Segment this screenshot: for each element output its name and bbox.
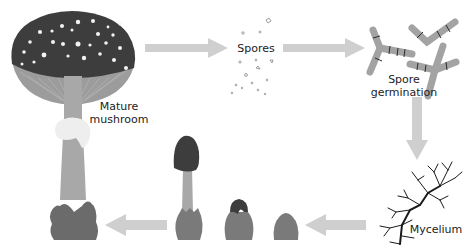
label-mycelium: Mycelium bbox=[410, 223, 463, 236]
label-mature: Mature bbox=[100, 100, 139, 113]
label-germination: germination bbox=[371, 86, 438, 99]
arrow-left-1 bbox=[305, 214, 366, 236]
spores-illustration bbox=[231, 18, 273, 95]
arrow-right-2 bbox=[283, 38, 365, 58]
arrow-left-2 bbox=[105, 214, 167, 236]
button-stage-illustration bbox=[225, 199, 254, 240]
young-mushroom-illustration bbox=[174, 136, 203, 240]
arrow-right-1 bbox=[145, 38, 228, 58]
label-spore: Spore bbox=[388, 73, 420, 86]
arrow-down bbox=[406, 97, 428, 160]
primordium-illustration bbox=[274, 213, 299, 240]
label-mushroom: mushroom bbox=[90, 113, 149, 126]
volva bbox=[50, 202, 98, 241]
label-spores: Spores bbox=[237, 42, 275, 55]
cap bbox=[11, 11, 135, 78]
mushroom-life-cycle-diagram: Mature mushroom Spores bbox=[0, 0, 471, 246]
cycle-arrows bbox=[105, 38, 428, 236]
